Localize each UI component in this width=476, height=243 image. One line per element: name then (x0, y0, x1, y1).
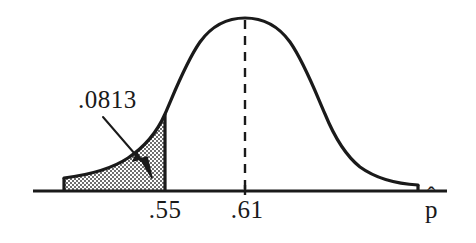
x-axis-title: p (425, 196, 438, 224)
shaded-region (64, 114, 165, 191)
tick-label-055: .55 (135, 196, 195, 224)
p-hat-symbol: p (425, 196, 438, 224)
shaded-area-label: .0813 (78, 86, 137, 114)
annotation-leader-line (103, 117, 141, 161)
tick-label-061: .61 (217, 196, 277, 224)
normal-distribution-figure: .0813 .55 .61 p (0, 0, 476, 243)
